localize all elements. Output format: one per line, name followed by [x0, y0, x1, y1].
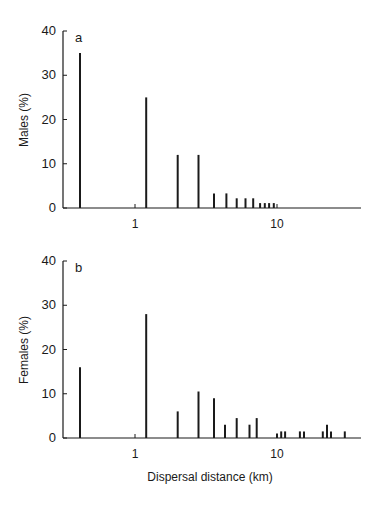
x-tick-label-10-b: 10	[270, 447, 284, 461]
y-axis-label-females: Females (%)	[17, 316, 31, 384]
y-tick-label: 40	[42, 23, 56, 38]
panel-label-b: b	[75, 260, 82, 275]
bars-males	[80, 53, 274, 208]
x-axis-label: Dispersal distance (km)	[147, 470, 272, 484]
x-tick-label-1-b: 1	[132, 447, 139, 461]
y-tick-label: 30	[42, 67, 56, 82]
y-tick-label: 0	[49, 430, 56, 445]
y-tick-label: 10	[42, 156, 56, 171]
y-tick-label: 10	[42, 386, 56, 401]
dispersal-chart: a Males (%) 010203040 1 10 b Females (%)…	[0, 0, 380, 505]
y-axis-label-males: Males (%)	[17, 93, 31, 147]
y-tick-label: 40	[42, 253, 56, 268]
y-tick-label: 30	[42, 297, 56, 312]
panel-label-a: a	[75, 30, 83, 45]
y-tick-label: 20	[42, 112, 56, 127]
y-tick-label: 0	[49, 200, 56, 215]
panel-males: a Males (%) 010203040 1 10	[17, 23, 361, 231]
bars-females	[80, 314, 345, 438]
panel-females: b Females (%) 010203040 1 10 Dispersal d…	[17, 253, 361, 484]
x-tick-label-1-a: 1	[132, 217, 139, 231]
y-tick-label: 20	[42, 342, 56, 357]
x-tick-label-10-a: 10	[270, 217, 284, 231]
